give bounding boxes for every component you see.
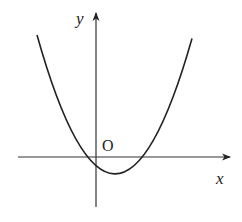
parabola-curve [37,35,192,174]
y-axis-label: y [76,10,84,27]
x-axis-label: x [216,170,224,187]
graph-canvas [0,0,242,222]
origin-label: O [102,138,114,154]
parabola-figure: y x O [0,0,242,222]
